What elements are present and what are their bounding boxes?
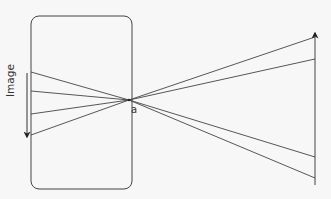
ray-3: [31, 59, 315, 114]
aperture-point: [128, 99, 130, 101]
camera-box: [31, 16, 132, 189]
ray-2: [31, 91, 315, 157]
ray-1: [31, 72, 315, 178]
image-label: Image: [4, 64, 16, 97]
aperture-label: a: [131, 104, 137, 115]
ray-4: [31, 37, 315, 135]
diagram-canvas: [0, 0, 331, 199]
rays: [31, 37, 315, 178]
